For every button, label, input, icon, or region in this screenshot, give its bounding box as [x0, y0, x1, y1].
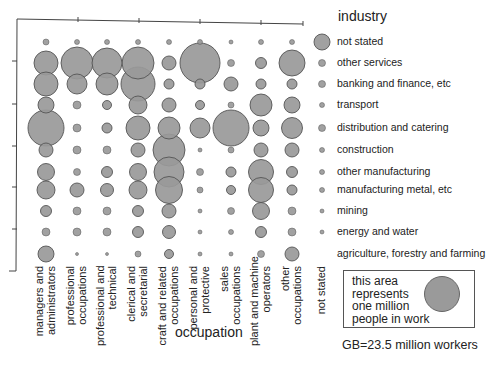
industry-label: not stated: [337, 35, 383, 47]
occupation-label: professionaloccupations: [64, 266, 88, 346]
bubble-5-1: [73, 146, 81, 154]
bubble-2-7: [256, 79, 266, 89]
bubble-4-4: [158, 117, 180, 139]
bubble-2-1: [67, 74, 87, 94]
bubble-5-9: [320, 148, 325, 153]
bubble-10-8: [285, 247, 299, 261]
bubble-4-7: [253, 120, 269, 136]
bubble-4-2: [102, 123, 112, 133]
industry-label: distribution and catering: [337, 121, 449, 133]
bubble-0-9: [314, 34, 330, 50]
bubble-6-9: [320, 170, 325, 175]
bubble-8-2: [103, 207, 111, 215]
bubble-10-4: [165, 250, 174, 259]
bubble-6-2: [102, 167, 113, 178]
bubble-5-0: [39, 143, 53, 157]
bubble-10-6: [229, 252, 233, 256]
industry-label: mining: [337, 204, 368, 216]
scale-legend-circle-icon: [424, 276, 460, 312]
bubble-3-8: [284, 97, 300, 113]
total-workers-note: GB=23.5 million workers: [342, 338, 478, 352]
industry-label: agriculture, forestry and farming: [337, 247, 485, 259]
bubble-6-1: [74, 169, 81, 176]
occupation-label: plant and machineoperators: [248, 266, 272, 346]
bubble-0-0: [43, 39, 49, 45]
bubble-2-5: [195, 79, 205, 89]
bubble-6-0: [38, 164, 55, 181]
bubble-7-6: [227, 186, 236, 195]
bubble-grid: [28, 34, 330, 262]
bubble-10-5: [198, 252, 202, 256]
bubble-3-4: [162, 98, 176, 112]
bubble-8-5: [198, 209, 202, 213]
occupation-axis-title: occupation: [175, 324, 243, 340]
bubble-9-8: [288, 228, 296, 236]
bubble-9-6: [229, 230, 234, 235]
bubble-7-8: [287, 185, 297, 195]
bubble-4-5: [190, 118, 210, 138]
bubble-6-8: [287, 167, 298, 178]
bubble-9-1: [73, 228, 81, 236]
bubble-7-3: [129, 181, 147, 199]
bubble-0-7: [259, 40, 264, 45]
scale-legend-box: this arearepresentsone millionpeople in …: [343, 270, 475, 328]
bubble-7-0: [37, 181, 55, 199]
bubble-2-6: [224, 77, 238, 91]
bubble-9-0: [42, 228, 50, 236]
bubble-3-2: [103, 101, 112, 110]
bubble-5-6: [228, 147, 234, 153]
bubble-7-4: [156, 177, 183, 204]
bubble-8-3: [133, 206, 144, 217]
bubble-6-5: [197, 169, 204, 176]
industry-label: other services: [337, 56, 402, 68]
industry-axis-title: industry: [338, 8, 387, 24]
bubble-9-5: [198, 230, 202, 234]
bubble-8-1: [73, 207, 81, 215]
occupation-label: professional andtechnical: [94, 266, 118, 346]
bubble-5-7: [254, 143, 268, 157]
bubble-10-1: [76, 253, 79, 256]
bubble-1-6: [228, 60, 235, 67]
bubble-2-2: [96, 73, 118, 95]
bubble-5-3: [131, 143, 145, 157]
bubble-3-6: [228, 102, 234, 108]
bubble-0-8: [290, 40, 295, 45]
bubble-3-3: [129, 96, 147, 114]
bubble-0-6: [229, 40, 233, 44]
bubble-3-9: [320, 103, 325, 108]
bubble-8-6: [228, 208, 235, 215]
bubble-1-4: [162, 56, 176, 70]
scale-legend-text: this arearepresentsone millionpeople in …: [352, 275, 429, 325]
bubble-4-6: [213, 110, 249, 146]
occupation-label: clerical andsecretarial: [125, 266, 149, 346]
bubble-7-5: [197, 187, 203, 193]
industry-label: transport: [337, 98, 378, 110]
bubble-10-2: [106, 253, 109, 256]
bubble-0-3: [136, 40, 141, 45]
bubble-9-7: [256, 227, 267, 238]
bubble-2-9: [319, 81, 326, 88]
industry-label: construction: [337, 143, 394, 155]
bubble-3-5: [196, 101, 205, 110]
occupation-label: otheroccupations: [279, 266, 303, 346]
bubble-5-8: [285, 143, 299, 157]
bubble-2-0: [34, 72, 58, 96]
bubble-0-4: [167, 40, 172, 45]
bubble-2-8: [287, 79, 297, 89]
bubble-10-3: [135, 251, 141, 257]
bubble-6-6: [226, 167, 236, 177]
bubble-3-1: [73, 101, 81, 109]
bubble-1-8: [279, 50, 305, 76]
bubble-4-1: [73, 124, 81, 132]
bubble-7-2: [101, 184, 114, 197]
bubble-3-0: [38, 97, 54, 113]
bubble-3-7: [250, 94, 272, 116]
bubble-7-9: [320, 188, 325, 193]
bubble-4-8: [282, 118, 303, 139]
bubble-1-0: [34, 51, 58, 75]
bubble-7-1: [70, 183, 84, 197]
bubble-0-1: [75, 40, 80, 45]
bubble-1-5: [180, 43, 220, 83]
bubble-9-9: [320, 230, 324, 234]
bubble-8-9: [320, 209, 324, 213]
